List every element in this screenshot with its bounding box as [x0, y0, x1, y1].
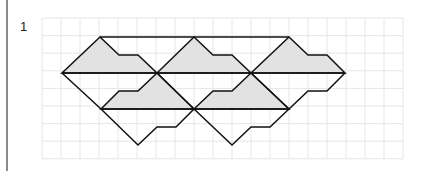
grid-lines — [42, 18, 403, 159]
tessellation-figure — [0, 0, 424, 171]
